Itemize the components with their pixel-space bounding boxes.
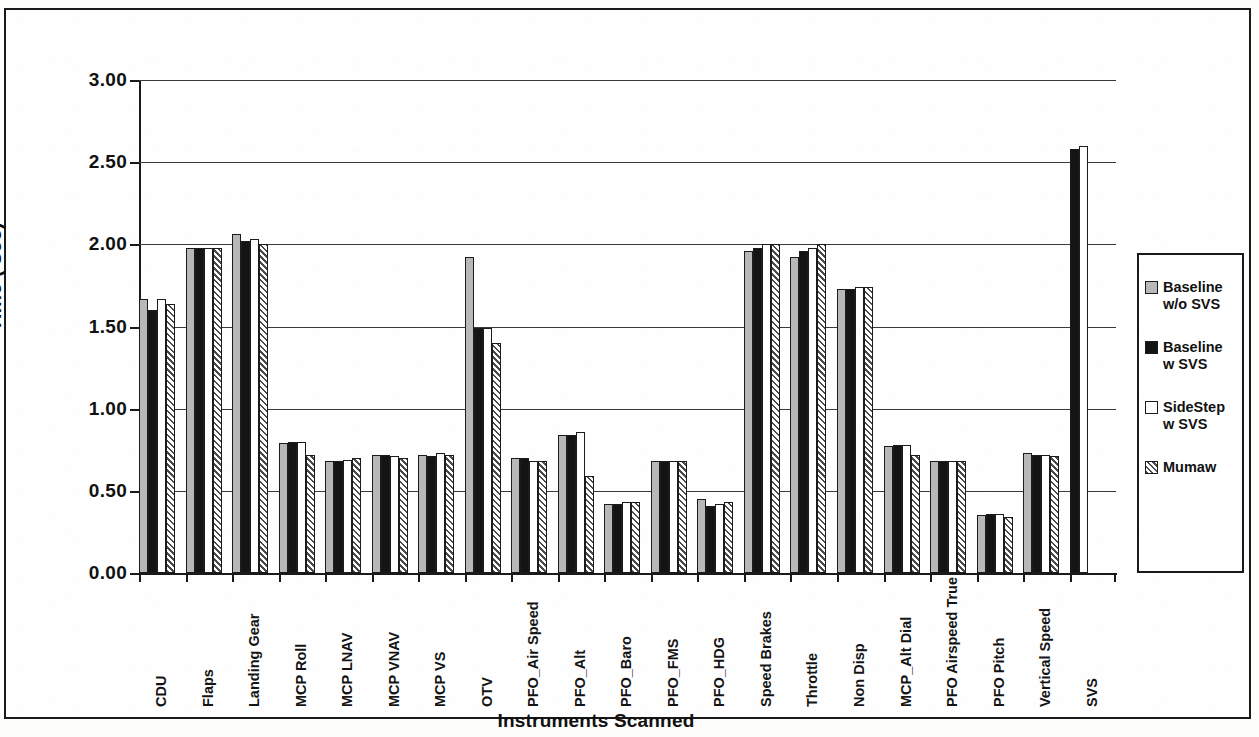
bar-group [837,80,884,573]
y-tick-mark [130,162,139,164]
bar [1004,517,1013,573]
x-label-cell: PFO_HDG [697,585,744,715]
bar [893,445,902,573]
x-tick-mark [1023,573,1025,582]
x-category-label: Non Disp [851,643,867,707]
legend-item: Baseline w/o SVS [1145,279,1242,313]
legend-swatch-icon [1145,341,1158,354]
bar-group [604,80,651,573]
x-label-cell: SVS [1070,585,1117,715]
x-category-label: MCP_Alt Dial [898,617,914,707]
bar [1050,456,1059,573]
x-tick-cell [325,573,372,583]
x-label-cell: Flaps [186,585,233,715]
x-label-cell: MCP VS [418,585,465,715]
bar [139,299,148,573]
x-category-label: MCP VNAV [386,632,402,707]
x-label-cell: Vertical Speed [1023,585,1070,715]
x-tick-mark [744,573,746,582]
x-category-label: MCP VS [432,652,448,707]
x-tick-mark [279,573,281,582]
x-label-cell: MCP LNAV [325,585,372,715]
x-tick-cell [232,573,279,583]
bar [715,504,724,573]
bar-groups [139,80,1116,573]
bar-group [232,80,279,573]
y-tick-mark [130,409,139,411]
bar [343,460,352,573]
x-tick-mark [465,573,467,582]
bar-group [930,80,977,573]
y-tick-mark [130,327,139,329]
x-label-cell: PFO_Alt [558,585,605,715]
legend-label: Baseline w/o SVS [1163,279,1223,313]
x-category-label: OTV [479,677,495,707]
x-tick-cell [1023,573,1070,583]
bar [195,248,204,573]
x-label-cell: MCP_Alt Dial [884,585,931,715]
x-tick-cell [651,573,698,583]
x-tick-mark [1070,573,1072,582]
x-category-label: PFO Pitch [991,638,1007,707]
x-tick-mark [837,573,839,582]
bar [445,455,454,573]
bar [706,506,715,573]
bar [558,435,567,573]
x-label-cell: PFO Pitch [977,585,1024,715]
bar [213,248,222,573]
x-category-label: PFO_Alt [572,650,588,707]
legend-label: SideStep w SVS [1163,399,1225,433]
bar [697,499,706,573]
x-tick-mark [790,573,792,582]
bar [297,442,306,573]
bar-group [977,80,1024,573]
bar-group [1070,80,1117,573]
x-label-cell: MCP Roll [279,585,326,715]
bar-group [697,80,744,573]
x-label-cell: Non Disp [837,585,884,715]
bar [148,310,157,573]
bar [372,455,381,573]
y-axis-title: Time ( sec) [0,147,6,407]
bar [576,432,585,573]
bar [930,461,939,573]
x-category-label: Flaps [200,669,216,707]
bar-group [744,80,791,573]
bar [724,502,733,573]
bar [186,248,195,573]
x-category-label: PFO Airspeed True [944,577,960,707]
x-category-label: PFO_HDG [711,637,727,707]
legend-item: Mumaw [1145,459,1242,476]
x-tick-mark [232,573,234,582]
bar [325,461,334,573]
bar [492,343,501,573]
bar [604,504,613,573]
bar [279,443,288,573]
x-tick-cell [744,573,791,583]
bar [799,251,808,573]
x-label-cell: PFO_Air Speed [511,585,558,715]
y-tick-mark [130,573,139,575]
bar [529,461,538,573]
bar [948,461,957,573]
bar-group [790,80,837,573]
bar [418,455,427,573]
bar [390,456,399,573]
bar [660,461,669,573]
x-label-cell: MCP VNAV [372,585,419,715]
x-tick-cell [465,573,512,583]
x-tick-mark [604,573,606,582]
x-label-cell: Speed Brakes [744,585,791,715]
x-tick-mark [372,573,374,582]
bar [538,461,547,573]
bar [288,442,297,573]
bar [1023,453,1032,573]
x-tick-cell [558,573,605,583]
x-tick-mark [930,573,932,582]
x-tick-cell [418,573,465,583]
bar [436,453,445,573]
bar [511,458,520,573]
y-tick-label: 0.00 [55,562,127,584]
bar [1070,149,1079,573]
bar [567,435,576,573]
